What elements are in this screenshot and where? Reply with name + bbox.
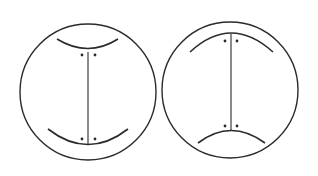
top-arc (57, 39, 118, 49)
panel-left-cell (20, 24, 156, 160)
bottom-arc (198, 131, 265, 144)
chromosome-dot (236, 40, 239, 43)
chromosome-dot (94, 54, 97, 57)
diagram-figure (0, 0, 318, 176)
chromosome-dot (81, 138, 84, 141)
chromosome-dot (224, 125, 227, 128)
panel-right-cell (162, 22, 298, 158)
chromosome-dot (224, 40, 227, 43)
outer-circle (162, 22, 298, 158)
chromosome-dot (81, 54, 84, 57)
chromosome-dot (236, 125, 239, 128)
diagram-canvas (0, 0, 318, 176)
chromosome-dot (94, 138, 97, 141)
